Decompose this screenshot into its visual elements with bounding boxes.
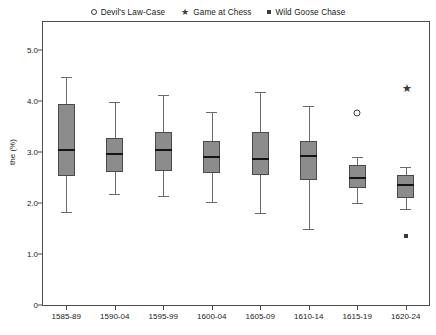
outlier-square-icon[interactable] <box>404 234 408 238</box>
y-axis-tick-group: 01.02.03.04.05.0 <box>0 0 38 335</box>
legend-item[interactable]: Devil's Law-Case <box>91 8 166 17</box>
legend-item[interactable]: Wild Goose Chase <box>267 8 345 17</box>
star-icon: ★ <box>181 8 189 16</box>
square-icon <box>267 10 271 14</box>
box-iqr-rect <box>300 141 317 180</box>
boxplot-figure: Devil's Law-Case★Game at ChessWild Goose… <box>0 0 436 335</box>
whisker-cap-lower <box>352 203 363 204</box>
chart-legend: Devil's Law-Case★Game at ChessWild Goose… <box>0 4 436 20</box>
whisker-cap-lower <box>158 196 169 197</box>
y-axis-title: the (%) <box>8 122 17 182</box>
whisker-lower <box>357 188 358 203</box>
box-iqr-rect <box>252 132 269 175</box>
outlier-star-icon[interactable]: ★ <box>402 83 410 91</box>
whisker-cap-lower <box>255 213 266 214</box>
median-line <box>349 177 366 179</box>
x-axis-tick-label: 1600-04 <box>197 312 226 321</box>
whisker-cap-lower <box>400 209 411 210</box>
whisker-lower <box>212 173 213 202</box>
median-line <box>203 156 220 158</box>
legend-item-label: Wild Goose Chase <box>275 8 345 17</box>
whisker-upper <box>406 167 407 175</box>
x-axis-tick-mark <box>163 306 164 310</box>
median-line <box>155 149 172 151</box>
whisker-lower <box>163 171 164 196</box>
whisker-cap-upper <box>206 112 217 113</box>
circle-icon <box>91 9 97 15</box>
x-axis-tick-mark <box>66 306 67 310</box>
x-axis-tick-mark <box>212 306 213 310</box>
y-axis-tick-label: 2.0 <box>27 199 38 208</box>
whisker-cap-upper <box>352 157 363 158</box>
y-axis-tick-label: 1.0 <box>27 250 38 259</box>
y-axis-tick-label: 5.0 <box>27 46 38 55</box>
x-axis-tick-mark <box>309 306 310 310</box>
legend-item-label: Game at Chess <box>193 8 251 17</box>
y-axis-tick-label: 3.0 <box>27 148 38 157</box>
median-line <box>300 155 317 157</box>
x-axis-tick-label: 1610-14 <box>294 312 323 321</box>
whisker-cap-lower <box>206 202 217 203</box>
outlier-circle-icon[interactable] <box>354 110 361 117</box>
whisker-upper <box>115 102 116 138</box>
x-axis-tick-mark <box>406 306 407 310</box>
whisker-cap-upper <box>158 95 169 96</box>
x-axis-tick-label: 1620-24 <box>391 312 420 321</box>
median-line <box>58 149 75 151</box>
whisker-lower <box>309 180 310 229</box>
plot-area <box>42 21 430 306</box>
x-axis-tick-mark <box>357 306 358 310</box>
whisker-lower <box>260 175 261 213</box>
median-line <box>106 153 123 155</box>
whisker-upper <box>357 157 358 165</box>
x-axis-tick-mark <box>260 306 261 310</box>
box-iqr-rect <box>106 138 123 172</box>
whisker-cap-upper <box>61 77 72 78</box>
whisker-cap-upper <box>109 102 120 103</box>
legend-item[interactable]: ★Game at Chess <box>181 8 251 17</box>
legend-item-label: Devil's Law-Case <box>101 8 166 17</box>
whisker-cap-upper <box>255 92 266 93</box>
whisker-lower <box>115 172 116 194</box>
box-iqr-rect <box>397 175 414 198</box>
whisker-upper <box>309 106 310 141</box>
x-axis-tick-label: 1585-89 <box>52 312 81 321</box>
y-axis-tick-label: 4.0 <box>27 97 38 106</box>
whisker-cap-lower <box>109 194 120 195</box>
median-line <box>397 184 414 186</box>
whisker-upper <box>163 95 164 132</box>
whisker-cap-lower <box>303 229 314 230</box>
whisker-upper <box>212 112 213 141</box>
whisker-cap-upper <box>303 106 314 107</box>
whisker-lower <box>66 176 67 212</box>
whisker-upper <box>260 92 261 132</box>
whisker-upper <box>66 77 67 104</box>
x-axis-tick-label: 1615-19 <box>343 312 372 321</box>
median-line <box>252 158 269 160</box>
x-axis-tick-mark <box>115 306 116 310</box>
whisker-cap-lower <box>61 212 72 213</box>
box-iqr-rect <box>58 104 75 176</box>
whisker-cap-upper <box>400 167 411 168</box>
x-axis-tick-label: 1590-04 <box>100 312 129 321</box>
whisker-lower <box>406 198 407 209</box>
x-axis-tick-label: 1605-09 <box>246 312 275 321</box>
x-axis-tick-label: 1595-99 <box>149 312 178 321</box>
box-iqr-rect <box>155 132 172 171</box>
